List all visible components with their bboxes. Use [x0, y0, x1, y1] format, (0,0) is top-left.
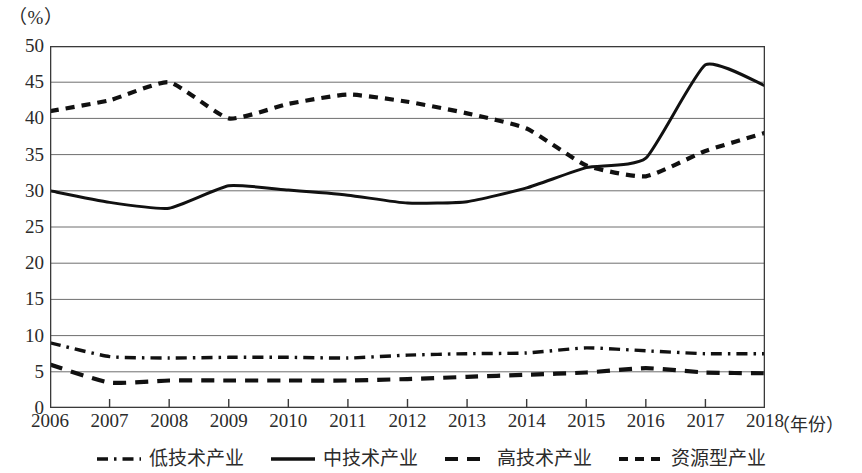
y-tick-label: 20 [0, 252, 44, 274]
legend-item[interactable]: 中技术产业 [270, 449, 418, 468]
y-tick-label: 40 [0, 107, 44, 129]
dotted-line-icon [618, 453, 664, 465]
x-tick-label: 2013 [448, 410, 486, 432]
x-tick-label: 2014 [508, 410, 546, 432]
x-tick-label: 2006 [31, 410, 69, 432]
series-line [50, 365, 765, 383]
series-line [50, 82, 765, 176]
gridlines [50, 82, 765, 372]
y-tick-label: 50 [0, 35, 44, 57]
y-tick-label: 25 [0, 216, 44, 238]
dashed-line-icon [444, 453, 490, 465]
solid-line-icon [270, 453, 316, 465]
legend-item[interactable]: 资源型产业 [618, 449, 766, 468]
series-line [50, 64, 765, 209]
legend-item[interactable]: 高技术产业 [444, 449, 592, 468]
dash-dot-line-icon [96, 453, 142, 465]
y-axis-tick-labels: 05101520253035404550 [0, 46, 44, 408]
x-axis-ticks [110, 399, 706, 408]
x-tick-label: 2012 [389, 410, 427, 432]
x-tick-label: 2017 [686, 410, 724, 432]
y-tick-label: 30 [0, 180, 44, 202]
x-tick-label: 2011 [329, 410, 366, 432]
x-tick-label: 2015 [567, 410, 605, 432]
line-chart-figure: （%） 05101520253035404550 200620072008200… [0, 0, 862, 473]
legend-label: 高技术产业 [497, 449, 592, 468]
chart-canvas [50, 46, 765, 408]
plot-area [50, 46, 765, 408]
series-line [50, 343, 765, 358]
x-tick-label: 2007 [91, 410, 129, 432]
x-axis-title: （年份） [772, 410, 844, 436]
legend-label: 低技术产业 [149, 449, 244, 468]
y-tick-label: 10 [0, 325, 44, 347]
x-tick-label: 2016 [627, 410, 665, 432]
y-tick-label: 15 [0, 288, 44, 310]
legend-label: 中技术产业 [323, 449, 418, 468]
y-tick-label: 35 [0, 144, 44, 166]
x-tick-label: 2009 [210, 410, 248, 432]
x-tick-label: 2008 [150, 410, 188, 432]
y-axis-unit-label: （%） [8, 2, 63, 29]
x-tick-label: 2010 [269, 410, 307, 432]
y-tick-label: 45 [0, 71, 44, 93]
y-tick-label: 5 [0, 361, 44, 383]
x-axis-tick-labels: 2006200720082009201020112012201320142015… [50, 410, 765, 438]
chart-legend: 低技术产业中技术产业高技术产业资源型产业 [0, 444, 862, 473]
legend-item[interactable]: 低技术产业 [96, 449, 244, 468]
legend-label: 资源型产业 [671, 449, 766, 468]
